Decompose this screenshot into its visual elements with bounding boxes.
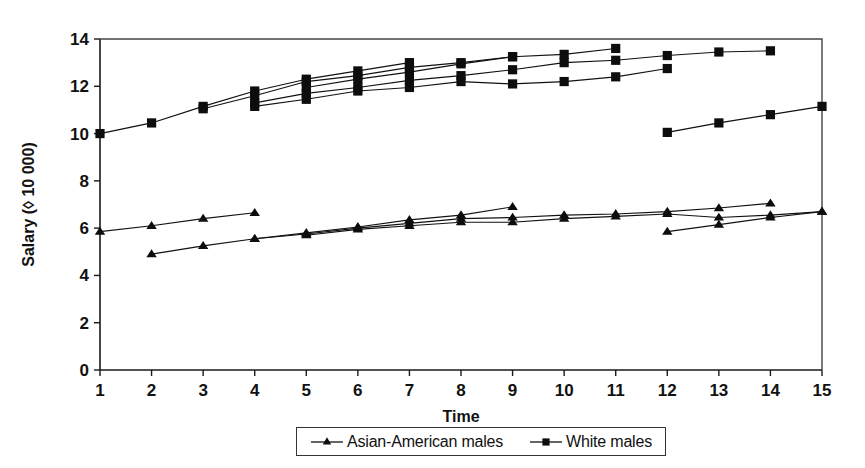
square-marker-icon	[529, 435, 563, 449]
data-point-marker	[250, 102, 259, 111]
data-point-marker	[199, 104, 208, 113]
data-point-marker	[765, 198, 775, 206]
y-tick-label: 12	[70, 77, 89, 96]
x-tick-label: 9	[508, 381, 517, 400]
series-6	[95, 208, 260, 235]
data-point-marker	[508, 79, 517, 88]
axis-ticks	[94, 39, 822, 376]
data-point-marker	[663, 51, 672, 60]
legend-label-asian-american-males: Asian-American males	[346, 433, 503, 451]
legend-item-asian-american-males: Asian-American males	[310, 433, 503, 451]
data-point-marker	[714, 118, 723, 127]
data-point-marker	[147, 118, 156, 127]
triangle-marker-icon	[310, 435, 344, 449]
data-point-marker	[611, 56, 620, 65]
data-point-marker	[817, 102, 826, 111]
plot-frame	[100, 39, 822, 370]
data-point-marker	[508, 52, 517, 61]
data-point-marker	[663, 64, 672, 73]
y-tick-label: 10	[70, 125, 89, 144]
salary-vs-time-line-chart: 123456789101112131415 02468101214 Time S…	[0, 0, 865, 468]
data-point-marker	[817, 207, 827, 215]
data-point-marker	[560, 50, 569, 59]
data-point-marker	[560, 58, 569, 67]
y-tick-label: 2	[80, 314, 89, 333]
y-tick-label: 14	[70, 30, 89, 49]
y-tick-label: 6	[80, 219, 89, 238]
x-axis-title: Time	[442, 408, 479, 425]
data-point-marker	[714, 47, 723, 56]
data-point-marker	[560, 77, 569, 86]
data-point-marker	[663, 128, 672, 137]
data-point-marker	[250, 208, 260, 216]
x-tick-label: 8	[456, 381, 465, 400]
data-point-marker	[507, 202, 517, 210]
x-tick-label: 10	[555, 381, 574, 400]
x-tick-label: 11	[607, 381, 625, 400]
chart-figure: 123456789101112131415 02468101214 Time S…	[0, 0, 865, 468]
series-5	[663, 102, 827, 137]
data-point-marker	[405, 68, 414, 77]
y-tick-label: 8	[80, 172, 89, 191]
series-10	[662, 207, 827, 235]
x-tick-label: 13	[709, 381, 728, 400]
data-point-marker	[353, 75, 362, 84]
y-tick-label: 4	[80, 266, 90, 285]
data-point-marker	[95, 129, 104, 138]
x-tick-label: 12	[658, 381, 677, 400]
data-point-marker	[611, 44, 620, 53]
legend-label-white-males: White males	[565, 433, 652, 451]
data-point-marker	[405, 83, 414, 92]
data-point-marker	[508, 65, 517, 74]
chart-legend: Asian-American males White males	[296, 427, 666, 456]
x-tick-label: 3	[198, 381, 207, 400]
data-point-marker	[353, 86, 362, 95]
x-tick-label: 5	[302, 381, 311, 400]
data-point-marker	[456, 59, 465, 68]
data-point-marker	[456, 77, 465, 86]
data-point-marker	[766, 110, 775, 119]
y-axis-title: Salary (◊ 10 000)	[20, 142, 37, 266]
data-point-marker	[611, 72, 620, 81]
x-tick-label: 2	[147, 381, 156, 400]
data-point-marker	[302, 95, 311, 104]
series-7	[146, 202, 517, 257]
x-tick-label: 4	[250, 381, 260, 400]
series-4	[250, 64, 672, 111]
x-tick-label: 1	[95, 381, 104, 400]
x-tick-label: 15	[813, 381, 832, 400]
data-point-marker	[766, 46, 775, 55]
y-axis-tick-labels: 02468101214	[70, 30, 89, 380]
data-point-marker	[714, 213, 724, 221]
legend-item-white-males: White males	[529, 433, 652, 451]
x-tick-label: 6	[353, 381, 362, 400]
x-tick-label: 7	[405, 381, 414, 400]
data-series-group	[95, 44, 827, 257]
y-tick-label: 0	[80, 361, 89, 380]
x-tick-label: 14	[761, 381, 780, 400]
x-axis-tick-labels: 123456789101112131415	[95, 381, 831, 400]
